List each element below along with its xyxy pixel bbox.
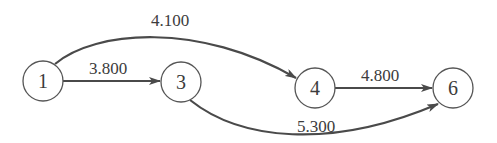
node-3-label: 3 bbox=[176, 71, 186, 93]
node-4: 4 bbox=[295, 68, 335, 108]
node-3: 3 bbox=[161, 62, 201, 102]
node-4-label: 4 bbox=[310, 77, 320, 99]
edge-weight-1-4: 4.100 bbox=[151, 11, 189, 30]
edge-1-to-3: 3.800 bbox=[63, 59, 160, 81]
node-1-label: 1 bbox=[38, 70, 48, 92]
edge-weight-1-3: 3.800 bbox=[89, 59, 127, 78]
node-1: 1 bbox=[23, 61, 63, 101]
edge-weight-4-6: 4.800 bbox=[361, 66, 399, 85]
edge-4-to-6: 4.800 bbox=[335, 66, 432, 88]
node-6-label: 6 bbox=[448, 77, 458, 99]
node-6: 6 bbox=[433, 68, 473, 108]
network-diagram: 3.800 4.100 4.800 5.300 1 3 bbox=[0, 0, 497, 143]
edge-weight-3-6: 5.300 bbox=[297, 117, 335, 136]
